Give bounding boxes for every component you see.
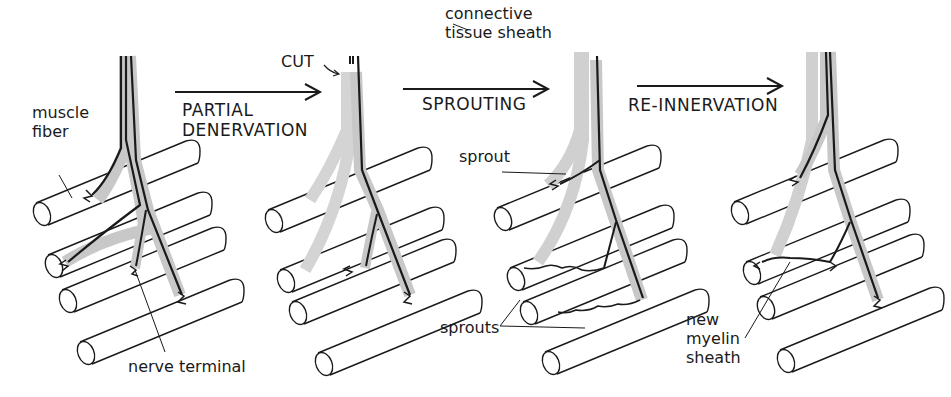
label-new-myelin-sheath: new myelin sheath bbox=[686, 310, 741, 367]
arrow-partial-denervation bbox=[175, 84, 320, 100]
transition-re-innervation: RE-INNERVATION bbox=[628, 95, 778, 115]
transition-partial-denervation: PARTIAL DENERVATION bbox=[182, 100, 308, 140]
diagram-canvas bbox=[0, 0, 951, 397]
muscle-fiber-leader bbox=[59, 175, 72, 198]
label-nerve-terminal: nerve terminal bbox=[128, 357, 246, 376]
arrow-re-innervation bbox=[637, 78, 782, 94]
label-cut: CUT bbox=[281, 52, 314, 71]
label-connective-tissue-sheath: connective tissue sheath bbox=[445, 4, 552, 42]
label-sprout: sprout bbox=[459, 147, 510, 166]
transition-sprouting: SPROUTING bbox=[422, 94, 526, 114]
label-muscle-fiber: muscle fiber bbox=[32, 103, 89, 141]
label-sprouts: sprouts bbox=[440, 318, 499, 337]
